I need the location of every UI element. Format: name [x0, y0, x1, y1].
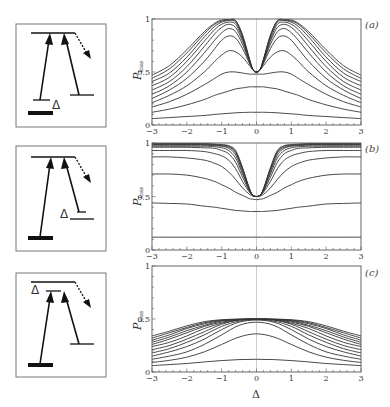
level-diagram-a: Δ: [16, 24, 106, 127]
svg-text:Ploss: Ploss: [131, 61, 144, 81]
x-tick-label: −2: [181, 374, 193, 383]
ylabel-b: Ploss: [131, 187, 144, 207]
delta-label-a: Δ: [52, 98, 61, 112]
svg-text:Ploss: Ploss: [131, 311, 144, 331]
x-tick-label: 3: [358, 374, 363, 383]
panel-label: (b): [365, 143, 379, 154]
x-tick-label: 3: [358, 252, 363, 261]
x-tick-label: 0: [254, 127, 259, 136]
y-tick-label: 1: [145, 15, 150, 24]
x-tick-label: −1: [216, 127, 228, 136]
y-tick-label: 1: [145, 139, 150, 148]
panel-label: (c): [365, 267, 379, 278]
x-tick-label: −2: [181, 127, 193, 136]
x-tick-label: 2: [324, 374, 329, 383]
y-tick-label: 0: [145, 368, 150, 377]
xlabel: Δ: [252, 388, 260, 401]
x-tick-label: 3: [358, 127, 363, 136]
x-tick-label: 1: [289, 252, 294, 261]
x-tick-label: 2: [324, 252, 329, 261]
x-tick-label: 1: [289, 127, 294, 136]
plot-panel-a: −3−2−1012300.51(a): [137, 15, 379, 136]
panel-label: (a): [365, 19, 379, 30]
x-tick-label: −2: [181, 252, 193, 261]
plot-panel-c: −3−2−1012300.51(c): [137, 262, 378, 383]
x-tick-label: 0: [254, 374, 259, 383]
x-tick-label: 0: [254, 252, 259, 261]
level-diagram-c: Δ: [16, 273, 106, 377]
x-tick-label: 2: [324, 127, 329, 136]
figure: Δ Δ Δ −3−2−1012300.51(a) −3−2−1012300.51…: [0, 0, 390, 407]
x-tick-label: −1: [216, 252, 228, 261]
y-tick-label: 0: [145, 246, 150, 255]
ylabel-a: Ploss: [131, 61, 144, 81]
delta-label-b: Δ: [60, 207, 69, 221]
x-tick-label: 1: [289, 374, 294, 383]
y-tick-label: 1: [145, 262, 150, 271]
x-tick-label: −1: [216, 374, 228, 383]
svg-text:Ploss: Ploss: [131, 187, 144, 207]
level-diagram-b: Δ: [16, 146, 106, 251]
delta-label-c: Δ: [31, 283, 40, 297]
y-tick-label: 0: [145, 121, 150, 130]
plot-panel-b: −3−2−1012300.51(b): [137, 139, 379, 261]
ylabel-c: Ploss: [131, 311, 144, 331]
